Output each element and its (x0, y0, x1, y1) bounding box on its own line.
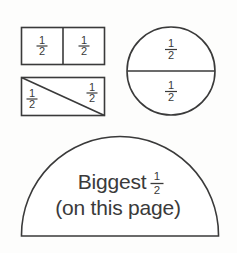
semicircle-caption-line2: (on this page) (55, 196, 181, 219)
fraction-denominator: 2 (89, 92, 95, 104)
shape-rectangle-vertical-split: 1 2 1 2 (22, 28, 105, 65)
fraction-denominator: 2 (39, 45, 45, 57)
fraction-denominator: 2 (29, 98, 35, 110)
fraction-numerator: 1 (168, 37, 174, 49)
semicircle-caption-line1: Biggest (78, 170, 147, 193)
fraction-denominator: 2 (168, 49, 174, 61)
fraction-denominator: 2 (81, 45, 87, 57)
fraction-numerator: 1 (154, 170, 160, 182)
halves-figure: 1 2 1 2 1 2 1 (0, 0, 237, 253)
shape-semicircle-biggest-half: Biggest 1 2 (on this page) (22, 137, 219, 237)
fraction-denominator: 2 (168, 91, 174, 103)
shape-circle-horizontal-split: 1 2 1 2 (127, 27, 215, 115)
fraction-numerator: 1 (168, 79, 174, 91)
shape-rectangle-diagonal-split: 1 2 1 2 (22, 78, 105, 116)
fraction-denominator: 2 (154, 184, 160, 196)
worksheet-canvas: 1 2 1 2 1 2 1 (0, 0, 237, 253)
